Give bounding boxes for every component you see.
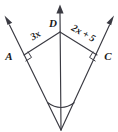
geometry-canvas: A D C 3x 2x + 5	[0, 0, 118, 132]
left-ray-arrowhead-icon	[5, 16, 13, 26]
vertex-label-a: A	[4, 50, 12, 62]
right-ray-line	[61, 25, 110, 130]
right-ray-arrowhead-icon	[107, 16, 115, 26]
vertex-label-d: D	[48, 17, 57, 29]
bisector-ray-line	[60, 13, 61, 130]
geometry-figure: A D C 3x 2x + 5	[0, 0, 118, 132]
measure-label-ad: 3x	[27, 28, 42, 43]
vertex-label-c: C	[104, 50, 112, 62]
bisector-ray-arrowhead-icon	[56, 5, 63, 14]
